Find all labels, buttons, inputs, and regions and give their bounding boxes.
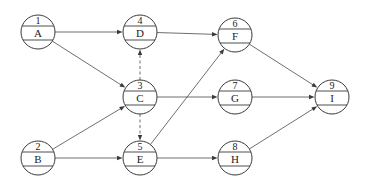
edge-3-4 xyxy=(138,50,142,81)
node-label: I xyxy=(330,92,334,104)
node-label: B xyxy=(34,153,41,165)
node-number: 7 xyxy=(233,80,238,91)
node-f: 6F xyxy=(218,18,252,52)
edge-8-9 xyxy=(249,106,317,149)
edge-4-6 xyxy=(157,32,218,36)
edge-line xyxy=(249,108,313,149)
edge-3-5 xyxy=(138,114,142,141)
node-number: 5 xyxy=(138,141,143,152)
arrowhead-icon xyxy=(219,49,224,55)
edge-line xyxy=(249,44,314,85)
node-c: 3C xyxy=(123,80,157,114)
node-label: F xyxy=(232,30,238,42)
edge-line xyxy=(157,33,214,35)
arrowhead-icon xyxy=(117,156,123,160)
node-number: 9 xyxy=(330,80,335,91)
arrowhead-icon xyxy=(311,83,317,88)
arrowhead-icon xyxy=(119,106,125,111)
node-number: 3 xyxy=(138,80,143,91)
arrowhead-icon xyxy=(138,50,142,56)
node-number: 8 xyxy=(233,141,238,152)
edge-1-3 xyxy=(52,41,125,87)
arrowhead-icon xyxy=(311,106,317,111)
edge-7-9 xyxy=(252,95,315,99)
edge-2-5 xyxy=(55,156,123,160)
node-number: 6 xyxy=(233,18,238,29)
node-label: A xyxy=(34,27,42,39)
edge-1-4 xyxy=(55,30,123,34)
node-i: 9I xyxy=(315,80,349,114)
edge-line xyxy=(150,52,221,145)
node-a: 1A xyxy=(21,15,55,49)
node-label: G xyxy=(231,92,239,104)
node-number: 2 xyxy=(36,141,41,152)
edges-layer xyxy=(52,30,317,160)
edge-6-9 xyxy=(249,44,317,87)
node-e: 5E xyxy=(123,141,157,175)
arrowhead-icon xyxy=(119,83,125,88)
node-g: 7G xyxy=(218,80,252,114)
edge-5-8 xyxy=(157,156,218,160)
node-b: 2B xyxy=(21,141,55,175)
network-diagram: 1A2B3C4D5E6F7G8H9I xyxy=(0,0,365,190)
arrowhead-icon xyxy=(117,30,123,34)
arrowhead-icon xyxy=(138,135,142,141)
node-d: 4D xyxy=(123,15,157,49)
arrowhead-icon xyxy=(212,95,218,99)
arrowhead-icon xyxy=(309,95,315,99)
edge-line xyxy=(52,41,122,85)
nodes-layer: 1A2B3C4D5E6F7G8H9I xyxy=(21,15,349,175)
node-label: D xyxy=(136,27,144,39)
edge-2-3 xyxy=(53,106,125,149)
node-label: E xyxy=(137,153,144,165)
arrowhead-icon xyxy=(212,156,218,160)
node-label: C xyxy=(136,92,143,104)
arrowhead-icon xyxy=(212,32,218,36)
node-number: 4 xyxy=(138,15,143,26)
edge-line xyxy=(53,108,122,149)
node-h: 8H xyxy=(218,141,252,175)
node-number: 1 xyxy=(36,15,41,26)
node-label: H xyxy=(231,153,239,165)
